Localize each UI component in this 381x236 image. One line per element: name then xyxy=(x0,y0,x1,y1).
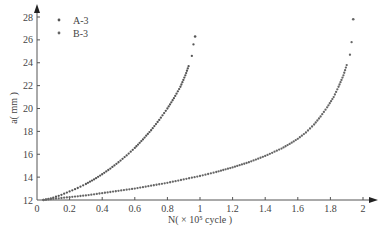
data-point xyxy=(155,184,157,186)
data-series xyxy=(42,18,354,201)
legend-label-b-3: B-3 xyxy=(73,28,88,39)
data-point xyxy=(259,157,261,159)
data-point xyxy=(93,178,95,180)
data-point xyxy=(183,76,185,78)
data-point xyxy=(243,163,245,165)
data-point xyxy=(252,159,254,161)
data-point xyxy=(352,18,355,21)
data-point xyxy=(178,88,180,90)
y-tick-label: 26 xyxy=(23,34,33,45)
data-point xyxy=(307,129,309,131)
data-point xyxy=(273,151,275,153)
data-point xyxy=(241,163,243,165)
data-point xyxy=(191,177,193,179)
crack-growth-chart: 00.20.40.60.811.21.41.61.821214161820222… xyxy=(0,0,381,236)
data-point xyxy=(165,110,167,112)
data-point xyxy=(68,196,70,198)
data-point xyxy=(337,86,339,88)
data-point xyxy=(98,192,100,194)
x-tick-label: 0 xyxy=(35,203,40,214)
data-point xyxy=(103,172,105,174)
y-tick-label: 24 xyxy=(23,57,33,68)
data-point xyxy=(188,177,190,179)
data-point xyxy=(121,158,123,160)
x-tick-label: 0.4 xyxy=(96,203,109,214)
data-point xyxy=(191,55,193,57)
data-point xyxy=(220,170,222,172)
data-point xyxy=(117,161,119,163)
data-point xyxy=(42,199,44,201)
data-point xyxy=(155,123,157,125)
y-tick-label: 14 xyxy=(23,172,33,183)
data-point xyxy=(55,197,57,199)
data-point xyxy=(293,140,295,142)
data-point xyxy=(109,167,111,169)
data-point xyxy=(47,198,49,200)
data-point xyxy=(171,99,173,101)
data-point xyxy=(276,150,278,152)
data-point xyxy=(139,186,141,188)
data-point xyxy=(85,194,87,196)
legend-label-a-3: A-3 xyxy=(73,15,89,26)
data-point xyxy=(341,76,343,78)
data-point xyxy=(349,54,351,56)
data-point xyxy=(63,193,65,195)
legend-marker-icon xyxy=(58,19,61,22)
data-point xyxy=(182,79,184,81)
data-point xyxy=(123,189,125,191)
data-point xyxy=(291,142,293,144)
data-point xyxy=(334,93,336,95)
y-tick-label: 18 xyxy=(23,126,33,137)
data-point xyxy=(87,182,89,184)
data-point xyxy=(295,139,297,141)
data-point xyxy=(153,125,155,127)
data-point xyxy=(329,102,331,104)
data-point xyxy=(160,117,162,119)
data-point xyxy=(343,72,345,74)
data-point xyxy=(137,143,139,145)
y-axis-label: a( mm ) xyxy=(8,92,20,124)
y-tick-label: 28 xyxy=(23,12,33,23)
data-point xyxy=(143,136,145,138)
data-point xyxy=(89,181,91,183)
x-tick-label: 1 xyxy=(198,203,203,214)
data-point xyxy=(115,163,117,165)
data-point xyxy=(311,125,313,127)
data-point xyxy=(262,156,264,158)
x-axis-label: N( × 10⁵ cycle ) xyxy=(168,214,232,226)
data-point xyxy=(52,198,54,200)
data-point xyxy=(79,195,81,197)
data-point xyxy=(79,186,81,188)
data-point xyxy=(339,81,341,83)
x-tick-label: 2 xyxy=(361,203,366,214)
data-point xyxy=(350,41,352,43)
data-point xyxy=(318,117,320,119)
data-point xyxy=(97,176,99,178)
data-point xyxy=(71,196,73,198)
data-point xyxy=(344,69,346,71)
data-point xyxy=(123,156,125,158)
data-point xyxy=(60,194,62,196)
data-point xyxy=(282,146,284,148)
data-point xyxy=(257,158,259,160)
data-point xyxy=(250,160,252,162)
y-tick-label: 22 xyxy=(23,80,33,91)
data-point xyxy=(93,193,95,195)
data-point xyxy=(187,67,189,69)
data-point xyxy=(330,100,332,102)
data-point xyxy=(174,180,176,182)
y-tick-label: 20 xyxy=(23,103,33,114)
data-point xyxy=(210,172,212,174)
data-point xyxy=(180,179,182,181)
data-point xyxy=(139,142,141,144)
data-point xyxy=(184,74,186,76)
data-point xyxy=(338,83,340,85)
data-point xyxy=(229,167,231,169)
data-point xyxy=(101,173,103,175)
data-point xyxy=(95,177,97,179)
data-point xyxy=(66,191,68,193)
data-point xyxy=(236,165,238,167)
data-point xyxy=(152,127,154,129)
data-point xyxy=(222,169,224,171)
data-point xyxy=(333,96,335,98)
